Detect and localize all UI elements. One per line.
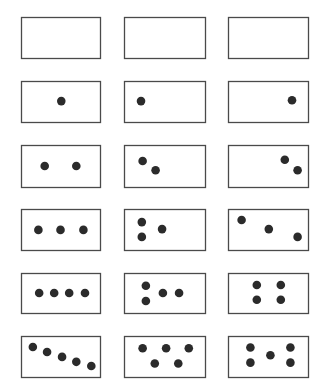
dot-card (22, 337, 101, 378)
dot (72, 358, 81, 367)
dot (79, 226, 88, 235)
dot-card (229, 274, 309, 314)
dot-card (229, 210, 309, 251)
dot-card (22, 82, 101, 123)
card-frame (125, 82, 206, 123)
dot (50, 289, 59, 298)
row-count-2 (22, 146, 309, 188)
card-frame (229, 18, 309, 59)
dot (159, 289, 168, 298)
dot (277, 296, 286, 305)
dot (175, 289, 184, 298)
row-count-3 (22, 210, 309, 251)
dot-card (22, 18, 101, 59)
dot (43, 348, 52, 357)
dot (137, 97, 146, 106)
dot (266, 351, 275, 360)
dot-card (229, 146, 309, 188)
card-frame (125, 146, 206, 188)
row-count-5 (22, 337, 309, 378)
dot (58, 353, 67, 362)
row-count-1 (22, 82, 309, 123)
dot (138, 218, 147, 227)
dot (265, 225, 274, 234)
dot (185, 344, 194, 353)
card-frame (125, 18, 206, 59)
dot (142, 282, 151, 291)
dot (246, 358, 255, 367)
dot (252, 281, 261, 290)
dot (138, 157, 147, 166)
dot-card (22, 274, 101, 314)
dot-card (125, 18, 206, 59)
dot (34, 226, 43, 235)
dot (162, 344, 171, 353)
dot (286, 358, 295, 367)
dot-card (229, 82, 309, 123)
dot-card (22, 146, 101, 188)
dot-card (125, 82, 206, 123)
card-frame (229, 274, 309, 314)
dot-card (229, 337, 309, 378)
card-frame (229, 82, 309, 123)
dot (288, 96, 297, 105)
dot (281, 155, 290, 164)
dot-card-grid (0, 0, 333, 384)
dot-card (229, 18, 309, 59)
dot (174, 359, 183, 368)
dot (40, 162, 49, 171)
dot (81, 289, 90, 298)
row-count-4 (22, 274, 309, 314)
dot (138, 233, 147, 242)
dot (293, 233, 302, 242)
card-frame (125, 337, 206, 378)
dot (246, 343, 255, 352)
dot (252, 296, 261, 305)
dot (72, 162, 81, 171)
dot-card (125, 274, 206, 314)
dot-card (22, 210, 101, 251)
row-count-0 (22, 18, 309, 59)
dot (293, 166, 302, 175)
dot (56, 226, 65, 235)
dot (150, 359, 159, 368)
dot (286, 343, 295, 352)
dot-card-figure (0, 0, 333, 384)
dot (35, 289, 44, 298)
dot (65, 289, 74, 298)
dot (277, 281, 286, 290)
dot (142, 297, 151, 306)
card-frame (22, 146, 101, 188)
card-frame (22, 18, 101, 59)
dot (29, 343, 38, 352)
dot (57, 97, 66, 106)
dot (158, 225, 167, 234)
dot-card (125, 210, 206, 251)
dot (151, 166, 160, 175)
dot (87, 362, 96, 371)
dot (237, 216, 246, 225)
dot-card (125, 146, 206, 188)
dot (138, 344, 147, 353)
dot-card (125, 337, 206, 378)
